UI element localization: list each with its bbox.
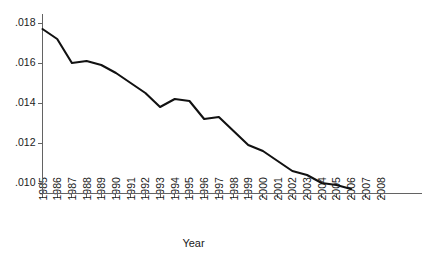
line-chart: .018.016.014.012.010 1985198619871988198… bbox=[0, 0, 430, 258]
x-tick-label: 1994 bbox=[169, 177, 181, 201]
x-axis-title: Year bbox=[182, 237, 205, 249]
y-tick-label: .014 bbox=[15, 96, 36, 108]
x-tick-label: 1988 bbox=[81, 177, 93, 201]
x-tick-label: 1986 bbox=[51, 177, 63, 201]
x-tick-label: 1995 bbox=[183, 177, 195, 201]
data-series-line bbox=[43, 29, 352, 189]
y-tick-label: .016 bbox=[15, 56, 36, 68]
x-tick-label: 1993 bbox=[154, 177, 166, 201]
x-axis-ticks: 1985198619871988198919901991199219931994… bbox=[37, 177, 387, 201]
x-tick-label: 1989 bbox=[95, 177, 107, 201]
x-tick-label: 1996 bbox=[198, 177, 210, 201]
x-tick-label: 1999 bbox=[242, 177, 254, 201]
x-tick-label: 2005 bbox=[330, 177, 342, 201]
y-tick-label: .012 bbox=[15, 136, 36, 148]
x-tick-label: 1990 bbox=[110, 177, 122, 201]
x-tick-label: 2008 bbox=[375, 177, 387, 201]
x-tick-label: 2002 bbox=[286, 177, 298, 201]
y-tick-label: .010 bbox=[15, 176, 36, 188]
y-axis-ticks: .018.016.014.012.010 bbox=[15, 16, 42, 188]
chart-canvas: .018.016.014.012.010 1985198619871988198… bbox=[0, 0, 430, 258]
x-tick-label: 1991 bbox=[125, 177, 137, 201]
x-tick-label: 1998 bbox=[228, 177, 240, 201]
x-tick-label: 2003 bbox=[301, 177, 313, 201]
x-tick-label: 1987 bbox=[66, 177, 78, 201]
x-tick-label: 2000 bbox=[257, 177, 269, 201]
x-tick-label: 2007 bbox=[360, 177, 372, 201]
y-tick-label: .018 bbox=[15, 16, 36, 28]
x-tick-label: 1997 bbox=[213, 177, 225, 201]
x-tick-label: 1992 bbox=[139, 177, 151, 201]
x-tick-label: 2001 bbox=[272, 177, 284, 201]
